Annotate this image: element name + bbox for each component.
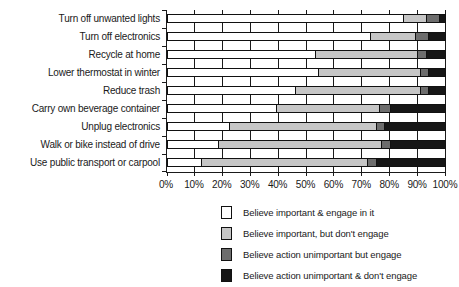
bar bbox=[167, 104, 446, 113]
legend-label: Believe action unimportant but engage bbox=[232, 249, 401, 260]
legend-swatch bbox=[221, 248, 232, 261]
bar-segment bbox=[367, 159, 375, 166]
bar-segment bbox=[428, 87, 445, 94]
bar-segment bbox=[420, 87, 428, 94]
x-axis-tick-label: 100% bbox=[428, 179, 459, 190]
x-axis-tick bbox=[417, 172, 418, 176]
bar-segment bbox=[276, 105, 378, 112]
y-axis-tick bbox=[162, 46, 167, 47]
x-axis-tick bbox=[306, 172, 307, 176]
bar-segment bbox=[370, 33, 414, 40]
x-axis-tick bbox=[445, 172, 446, 176]
x-axis-tick bbox=[194, 172, 195, 176]
bar bbox=[167, 50, 446, 59]
bar-segment bbox=[168, 141, 218, 148]
x-axis-tick bbox=[361, 172, 362, 176]
y-axis-tick bbox=[162, 64, 167, 65]
y-axis-tick bbox=[162, 171, 167, 172]
bar-segment bbox=[168, 159, 201, 166]
category-label: Turn off unwanted lights bbox=[59, 10, 160, 28]
bar-segment bbox=[168, 87, 295, 94]
bar-segment bbox=[428, 33, 445, 40]
bar bbox=[167, 140, 446, 149]
bar-segment bbox=[415, 33, 429, 40]
bar-segment bbox=[295, 87, 420, 94]
category-label: Lower thermostat in winter bbox=[48, 64, 160, 82]
bar-segment bbox=[201, 159, 367, 166]
legend-label: Believe important, but don't engage bbox=[232, 228, 389, 239]
bar-segment bbox=[315, 51, 417, 58]
bar-segment bbox=[168, 105, 276, 112]
category-label: Turn off electronics bbox=[80, 28, 160, 46]
bar-segment bbox=[168, 51, 315, 58]
bar-segment bbox=[218, 141, 381, 148]
bar-segment bbox=[439, 15, 445, 22]
bar bbox=[167, 158, 446, 167]
y-axis-tick bbox=[162, 136, 167, 137]
category-label: Unplug electronics bbox=[81, 118, 160, 136]
x-axis-tick bbox=[222, 172, 223, 176]
legend-label: Believe important & engage in it bbox=[232, 207, 374, 218]
legend-swatch bbox=[221, 206, 232, 219]
bar bbox=[167, 32, 446, 41]
bar bbox=[167, 14, 446, 23]
bar-segment bbox=[403, 15, 425, 22]
y-axis-tick bbox=[162, 118, 167, 119]
stacked-bar-chart: Believe important & engage in itBelieve … bbox=[0, 0, 459, 287]
legend-item: Believe important, but don't engage bbox=[221, 227, 417, 239]
bar-segment bbox=[379, 105, 390, 112]
bar-segment bbox=[428, 69, 445, 76]
legend-label: Believe action unimportant & don't engag… bbox=[232, 270, 417, 281]
bar-segment bbox=[420, 69, 428, 76]
legend-item: Believe important & engage in it bbox=[221, 206, 417, 218]
legend: Believe important & engage in itBelieve … bbox=[221, 206, 417, 281]
bar-segment bbox=[390, 105, 445, 112]
y-axis-tick bbox=[162, 154, 167, 155]
plot-area bbox=[166, 10, 446, 173]
category-label: Reduce trash bbox=[103, 82, 160, 100]
bar-segment bbox=[168, 123, 229, 130]
bar-segment bbox=[168, 69, 318, 76]
category-label: Use public transport or carpool bbox=[30, 154, 160, 172]
y-axis-tick bbox=[162, 82, 167, 83]
y-axis-tick bbox=[162, 28, 167, 29]
category-label: Walk or bike instead of drive bbox=[41, 136, 160, 154]
bar-segment bbox=[390, 141, 445, 148]
bar bbox=[167, 68, 446, 77]
bar-segment bbox=[318, 69, 420, 76]
bar-segment bbox=[376, 159, 445, 166]
y-axis-tick bbox=[162, 100, 167, 101]
legend-item: Believe action unimportant but engage bbox=[221, 248, 417, 260]
bar bbox=[167, 122, 446, 131]
bar-segment bbox=[426, 15, 440, 22]
x-axis-tick bbox=[389, 172, 390, 176]
bar-segment bbox=[417, 51, 425, 58]
bar-segment bbox=[168, 15, 403, 22]
x-axis-tick bbox=[250, 172, 251, 176]
bar bbox=[167, 86, 446, 95]
bar-segment bbox=[376, 123, 384, 130]
category-label: Carry own beverage container bbox=[32, 100, 160, 118]
bar-segment bbox=[168, 33, 370, 40]
legend-swatch bbox=[221, 227, 232, 240]
y-axis-tick bbox=[162, 10, 167, 11]
legend-swatch bbox=[221, 269, 232, 282]
bar-segment bbox=[229, 123, 376, 130]
bar-segment bbox=[426, 51, 445, 58]
x-axis-tick bbox=[167, 172, 168, 176]
bar-segment bbox=[384, 123, 445, 130]
legend-item: Believe action unimportant & don't engag… bbox=[221, 269, 417, 281]
bar-segment bbox=[381, 141, 389, 148]
category-label: Recycle at home bbox=[89, 46, 160, 64]
x-axis-tick bbox=[278, 172, 279, 176]
x-axis-tick bbox=[333, 172, 334, 176]
